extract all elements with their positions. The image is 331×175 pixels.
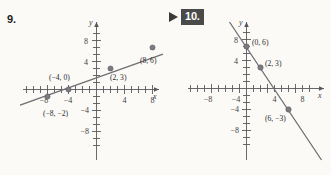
data-point-label-9-2: (−4, 0) — [49, 73, 70, 82]
y-tick-label-8-9: 8 — [84, 37, 88, 46]
data-point-label-10-3: (6, −3) — [265, 114, 286, 123]
data-point-10-3 — [286, 107, 291, 112]
graph-problem-10: x y −8 −4 4 8 8 4 −4 −8 (0, 6) (2, 3) (6… — [166, 0, 331, 175]
y-axis-label-9: y — [88, 18, 93, 27]
x-tick-label-neg4-9: −4 — [64, 96, 73, 105]
y-axis-label-10: y — [238, 18, 243, 27]
x-tick-label-neg4-10: −4 — [232, 95, 241, 104]
x-tick-label-8-9: 8 — [151, 96, 155, 105]
data-point-9-3 — [108, 66, 113, 71]
x-axis-label-10: x — [317, 91, 322, 100]
y-tick-label-4-9: 4 — [84, 58, 88, 67]
data-point-9-4 — [150, 45, 155, 50]
data-point-9-1 — [45, 94, 50, 99]
x-tick-label-neg8-10: −8 — [204, 95, 213, 104]
coordinate-plane-10: x y −8 −4 4 8 8 4 −4 −8 (0, 6) (2, 3) (6… — [166, 0, 331, 175]
data-point-10-2 — [258, 65, 263, 70]
data-point-9-2 — [66, 87, 71, 92]
y-axis-arrow-9 — [94, 22, 99, 27]
data-point-label-10-1: (0, 6) — [252, 38, 269, 47]
data-point-label-9-1: (−8, −2) — [43, 109, 68, 118]
y-tick-label-neg8-9: −8 — [80, 127, 89, 136]
y-tick-label-neg8-10: −8 — [230, 126, 239, 135]
x-tick-label-4-9: 4 — [123, 96, 127, 105]
data-point-10-1 — [244, 44, 249, 49]
data-line-10 — [230, 22, 322, 160]
data-point-label-9-3: (2, 3) — [110, 73, 127, 82]
coordinate-plane-9: x y −8 −4 4 8 8 4 −4 −8 (−8, −2) (−4, 0)… — [0, 0, 165, 175]
x-tick-label-8-10: 8 — [301, 95, 305, 104]
data-point-label-10-2: (2, 3) — [265, 59, 282, 68]
y-tick-label-8-10: 8 — [234, 36, 238, 45]
y-tick-label-neg4-9: −4 — [80, 106, 89, 115]
data-point-label-9-4: (8, 6) — [140, 56, 157, 65]
x-tick-label-4-10: 4 — [273, 95, 277, 104]
worksheet-page: 9. — [0, 0, 331, 175]
y-tick-label-neg4-10: −4 — [230, 105, 239, 114]
y-axis-arrow-10 — [244, 22, 249, 27]
graph-problem-9: x y −8 −4 4 8 8 4 −4 −8 (−8, −2) (−4, 0)… — [0, 0, 165, 175]
y-tick-label-4-10: 4 — [234, 57, 238, 66]
